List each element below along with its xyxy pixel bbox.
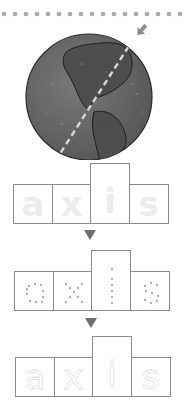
dotted-divider — [0, 10, 184, 18]
letter-box-a: a — [13, 184, 53, 224]
dotted-letter-s — [131, 272, 171, 312]
dotted-letter-a — [15, 272, 55, 312]
letter-box-a: a — [14, 271, 54, 311]
dotted-letter-i — [92, 251, 132, 312]
letter-box-i: i — [91, 250, 131, 311]
letter: a — [25, 360, 46, 394]
dotted-letter-x — [54, 272, 94, 312]
letter-box-i: i — [92, 336, 132, 397]
word-row-faint: a x i s — [15, 336, 171, 397]
letter-box-x: x — [53, 271, 93, 311]
letter-box-x: x — [52, 184, 92, 224]
letter-box-s: s — [131, 357, 171, 397]
letter: s — [138, 187, 158, 221]
pole-arrow-icon — [134, 24, 150, 38]
letter-box-a: a — [15, 357, 55, 397]
letter: i — [104, 184, 116, 218]
letter: x — [61, 187, 83, 221]
letter: x — [63, 360, 83, 394]
word-row-dotted: a x i s — [14, 250, 170, 311]
letter-box-s: s — [129, 184, 169, 224]
down-arrow-icon — [84, 230, 96, 240]
letter: s — [142, 360, 160, 394]
word-row-solid: a x i s — [13, 163, 169, 224]
down-arrow-icon — [85, 318, 97, 328]
letter-box-i: i — [90, 163, 130, 224]
letter: a — [22, 187, 45, 221]
globe-illustration — [22, 24, 162, 160]
letter: i — [107, 357, 116, 391]
letter-box-s: s — [130, 271, 170, 311]
letter-box-x: x — [54, 357, 94, 397]
